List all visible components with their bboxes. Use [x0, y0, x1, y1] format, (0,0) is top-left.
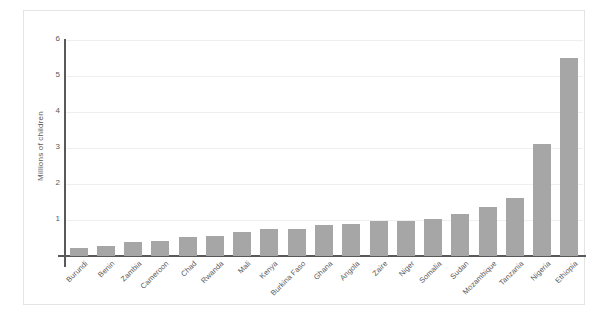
x-tick-label: Mali — [236, 259, 252, 275]
bar — [288, 229, 306, 256]
x-tick-label: Angola — [338, 259, 361, 282]
bar — [233, 232, 251, 256]
x-tick-label: Zaire — [370, 259, 389, 278]
x-tick-label: Burundi — [64, 259, 89, 284]
y-tick-label: 1 — [34, 214, 60, 223]
y-tick-label: 3 — [34, 142, 60, 151]
x-tick-label: Ghana — [312, 259, 335, 282]
y-tick-label: 6 — [34, 34, 60, 43]
x-tick-label: Sudan — [449, 259, 471, 281]
y-tick-label: 4 — [34, 106, 60, 115]
x-tick-label: Kenya — [258, 259, 280, 281]
x-tick-label: Cameroon — [139, 259, 171, 291]
bar — [533, 144, 551, 256]
bar — [124, 242, 142, 256]
bar — [451, 214, 469, 256]
bar — [370, 221, 388, 256]
y-axis-ticks: 654321 — [32, 40, 60, 256]
bar — [97, 246, 115, 256]
x-tick-label: Ethiopia — [554, 259, 580, 285]
x-tick-label: Tanzania — [497, 259, 525, 287]
x-tick-label: Niger — [397, 259, 416, 278]
x-tick-label: Nigeria — [529, 259, 553, 283]
bar — [70, 248, 88, 256]
bar — [342, 224, 360, 256]
x-axis-labels: BurundiBeninZambiaCameroonChadRwandaMali… — [65, 259, 583, 307]
x-tick-label: Rwanda — [199, 259, 225, 285]
bar — [179, 237, 197, 256]
bar — [151, 241, 169, 256]
bar — [424, 219, 442, 256]
bar — [506, 198, 524, 256]
bar — [479, 207, 497, 256]
bar-series — [65, 40, 583, 256]
bar — [397, 221, 415, 256]
bar — [206, 236, 224, 256]
y-tick-label: 5 — [34, 70, 60, 79]
x-tick-label: Chad — [179, 259, 198, 278]
x-tick-label: Somalia — [417, 259, 443, 285]
bar — [315, 225, 333, 256]
bar — [560, 58, 578, 256]
x-tick-label: Benin — [96, 259, 116, 279]
y-tick-label: 2 — [34, 178, 60, 187]
x-tick-label: Zambia — [119, 259, 143, 283]
bar — [260, 229, 278, 256]
chart-container: Millions of children 654321 BurundiBenin… — [23, 10, 585, 305]
